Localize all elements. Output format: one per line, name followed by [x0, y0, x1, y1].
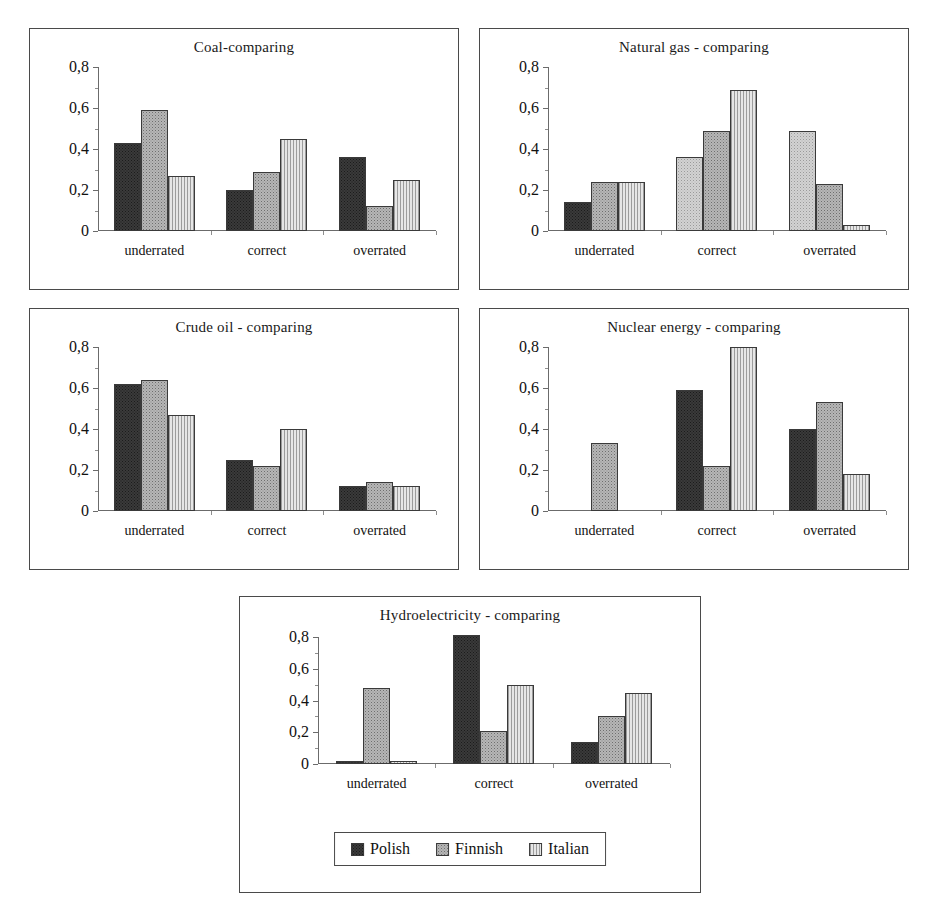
y-axis-tick-label: 0,4: [69, 140, 89, 158]
chart-title-coal: Coal-comparing: [30, 39, 458, 56]
chart-title-hydroelectricity: Hydroelectricity - comparing: [240, 607, 700, 624]
bar-polish-underrated: [114, 384, 141, 511]
bar-finnish-overrated: [366, 482, 393, 511]
plot-area-hydroelectricity: 0,80,60,40,20underratedcorrectoverrated: [318, 637, 670, 764]
bar-italian-correct: [280, 429, 307, 511]
y-axis-tick-label: 0,6: [519, 379, 539, 397]
x-axis-group-tick: [773, 231, 774, 235]
legend-swatch-polish-icon: [351, 843, 364, 856]
bar-finnish-underrated: [363, 688, 390, 764]
x-axis-label-underrated: underrated: [124, 243, 184, 259]
legend-swatch-italian-icon: [529, 843, 542, 856]
bar-polish-overrated: [571, 742, 598, 764]
y-axis-tick-label: 0,4: [519, 140, 539, 158]
bar-italian-underrated: [168, 415, 195, 511]
bar-polish-underrated: [336, 761, 363, 764]
x-axis-label-correct: correct: [248, 243, 287, 259]
y-axis-tick-label: 0: [301, 755, 309, 773]
bar-polish-correct: [676, 157, 703, 231]
y-axis-tick: [543, 231, 548, 232]
y-axis-tick-label: 0: [81, 502, 89, 520]
bar-group-overrated: [773, 347, 886, 511]
bar-group-underrated: [98, 347, 211, 511]
y-axis-tick-label: 0,4: [519, 420, 539, 438]
legend-item-polish: Polish: [351, 840, 410, 858]
y-axis-tick-label: 0,2: [69, 461, 89, 479]
bar-italian-correct: [730, 347, 757, 511]
bar-group-underrated: [318, 637, 435, 764]
figure-panel-grid: Coal-comparing 0,80,60,40,20underratedco…: [0, 0, 942, 902]
chart-legend: Polish Finnish Italian: [334, 832, 606, 866]
y-axis-tick-label: 0,4: [289, 691, 309, 709]
bar-italian-overrated: [625, 693, 652, 764]
bar-polish-overrated: [789, 429, 816, 511]
plot-area-crude-oil: 0,80,60,40,20underratedcorrectoverrated: [98, 347, 436, 511]
chart-panel-crude-oil: Crude oil - comparing 0,80,60,40,20under…: [29, 308, 459, 570]
plot-area-nuclear-energy: 0,80,60,40,20underratedcorrectoverrated: [548, 347, 886, 511]
bar-group-overrated: [553, 637, 670, 764]
bar-group-overrated: [323, 67, 436, 231]
y-axis-tick: [93, 511, 98, 512]
bar-finnish-correct: [480, 731, 507, 764]
x-axis-group-tick: [211, 511, 212, 515]
y-axis-tick-label: 0,2: [519, 181, 539, 199]
bar-group-correct: [661, 67, 774, 231]
y-axis-tick: [543, 511, 548, 512]
y-axis-tick-label: 0,8: [69, 338, 89, 356]
x-axis-group-tick: [435, 764, 436, 768]
x-axis-label-underrated: underrated: [124, 523, 184, 539]
x-axis-label-overrated: overrated: [803, 523, 856, 539]
bar-polish-correct: [453, 635, 480, 764]
y-axis-tick-label: 0,8: [69, 58, 89, 76]
bar-finnish-overrated: [598, 716, 625, 764]
y-axis-tick-label: 0,8: [519, 58, 539, 76]
bar-group-correct: [661, 347, 774, 511]
bar-finnish-correct: [253, 172, 280, 231]
x-axis-label-underrated: underrated: [574, 243, 634, 259]
y-axis-tick-label: 0,8: [519, 338, 539, 356]
bar-finnish-overrated: [816, 184, 843, 231]
bar-group-overrated: [323, 347, 436, 511]
x-axis-group-tick: [323, 231, 324, 235]
x-axis-label-underrated: underrated: [347, 776, 407, 792]
bar-italian-overrated: [393, 486, 420, 511]
bar-italian-underrated: [168, 176, 195, 231]
y-axis-tick-label: 0: [531, 222, 539, 240]
bar-italian-correct: [507, 685, 534, 764]
x-axis-group-tick: [670, 764, 671, 768]
bar-italian-overrated: [393, 180, 420, 231]
x-axis-label-correct: correct: [248, 523, 287, 539]
chart-title-natural-gas: Natural gas - comparing: [480, 39, 908, 56]
bar-italian-overrated: [843, 225, 870, 231]
legend-label-italian: Italian: [548, 840, 589, 858]
x-axis-label-correct: correct: [475, 776, 514, 792]
bar-italian-underrated: [618, 182, 645, 231]
plot-area-coal: 0,80,60,40,20underratedcorrectoverrated: [98, 67, 436, 231]
bar-polish-overrated: [789, 131, 816, 231]
y-axis-tick: [313, 764, 318, 765]
bar-finnish-correct: [703, 466, 730, 511]
bar-polish-correct: [226, 460, 253, 511]
chart-panel-nuclear-energy: Nuclear energy - comparing 0,80,60,40,20…: [479, 308, 909, 570]
bar-finnish-overrated: [816, 402, 843, 511]
bar-group-correct: [435, 637, 552, 764]
bar-italian-underrated: [390, 761, 417, 764]
bar-finnish-underrated: [591, 443, 618, 511]
y-axis-tick-label: 0: [81, 222, 89, 240]
chart-panel-coal: Coal-comparing 0,80,60,40,20underratedco…: [29, 28, 459, 290]
y-axis-tick-label: 0,6: [69, 99, 89, 117]
x-axis-label-overrated: overrated: [353, 523, 406, 539]
legend-item-finnish: Finnish: [436, 840, 503, 858]
chart-panel-hydroelectricity: Hydroelectricity - comparing 0,80,60,40,…: [239, 596, 701, 893]
bar-finnish-correct: [253, 466, 280, 511]
y-axis-tick-label: 0,8: [289, 628, 309, 646]
bar-finnish-underrated: [591, 182, 618, 231]
legend-item-italian: Italian: [529, 840, 589, 858]
x-axis-group-tick: [211, 231, 212, 235]
x-axis-group-tick: [436, 511, 437, 515]
x-axis-label-overrated: overrated: [803, 243, 856, 259]
x-axis-label-correct: correct: [698, 243, 737, 259]
chart-title-crude-oil: Crude oil - comparing: [30, 319, 458, 336]
bar-polish-overrated: [339, 486, 366, 511]
bar-italian-correct: [730, 90, 757, 231]
